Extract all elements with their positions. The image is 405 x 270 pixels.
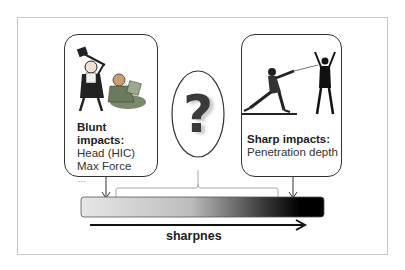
question-mark-icon: ?: [178, 86, 218, 142]
sharpness-axis-label: sharpnes: [166, 229, 222, 243]
sharpness-gradient-bar: [81, 197, 324, 217]
